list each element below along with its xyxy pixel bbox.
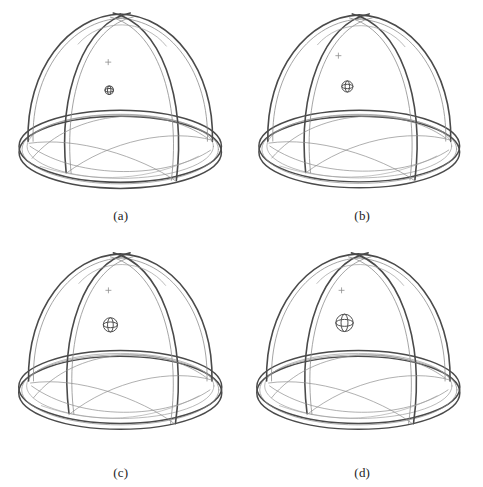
dome-wireframe-d xyxy=(256,252,459,428)
panel-caption-b: (b) xyxy=(242,209,483,222)
interior-arc-3 xyxy=(307,375,450,414)
interior-arc-2 xyxy=(269,146,448,171)
meridian-arc-2-outer xyxy=(120,14,212,141)
meridian-arc-2-outer xyxy=(120,253,212,380)
meridian-arc-3-inner xyxy=(309,256,370,414)
meridian-arc-2-outer xyxy=(359,15,451,141)
dome-wireframe-b xyxy=(258,14,459,188)
meridian-arc-2-inner xyxy=(357,19,446,141)
meridian-arc-4-inner xyxy=(348,256,411,423)
dome-illustration-d xyxy=(242,244,483,487)
wireframe-sphere-marker-a xyxy=(105,86,113,94)
point-cross-marker-a xyxy=(105,59,111,65)
interior-arc-2 xyxy=(30,146,210,171)
figure-root: (a) xyxy=(0,0,483,487)
wireframe-sphere-marker-c xyxy=(103,317,117,331)
interior-arc-4 xyxy=(268,142,414,181)
panel-a: (a) xyxy=(0,0,242,244)
interior-arc-2 xyxy=(32,385,210,411)
point-cross-marker-c xyxy=(105,287,111,293)
meridian-arc-3-outer xyxy=(304,14,369,172)
panel-b: (b) xyxy=(242,0,483,244)
meridian-arc-4-inner xyxy=(349,18,412,180)
equator-disc-ellipse xyxy=(27,114,213,178)
point-cross-marker-d xyxy=(338,287,344,293)
meridian-arc-4-inner xyxy=(110,256,173,423)
meridian-arc-3-inner xyxy=(309,18,372,173)
meridian-arc-1-inner xyxy=(272,19,361,141)
meridian-arc-2-outer xyxy=(358,253,450,380)
interior-arc-3 xyxy=(69,375,212,414)
panel-caption-d: (d) xyxy=(242,466,483,479)
interior-arc-5 xyxy=(40,156,198,177)
dome-illustration-c xyxy=(0,244,242,487)
panel-d: (d) xyxy=(242,244,483,487)
meridian-arc-3-outer xyxy=(65,13,131,172)
dome-wireframe-a xyxy=(19,13,221,188)
interior-arc-5 xyxy=(279,156,436,177)
meridian-arc-4-inner xyxy=(110,17,173,180)
interior-arc-4 xyxy=(29,142,176,181)
point-cross-marker-b xyxy=(335,53,341,59)
meridian-arc-1-inner xyxy=(33,18,122,141)
wireframe-sphere-marker-b xyxy=(341,81,352,92)
interior-arc-2 xyxy=(269,385,447,411)
interior-arc-5 xyxy=(279,395,437,417)
panel-caption-a: (a) xyxy=(0,209,242,222)
dome-illustration-a xyxy=(0,0,242,244)
meridian-arc-3-inner xyxy=(72,256,133,414)
dome-wireframe-c xyxy=(19,252,222,428)
interior-arc-5 xyxy=(41,395,199,417)
panel-grid: (a) xyxy=(0,0,483,487)
wireframe-sphere-marker-d xyxy=(335,314,352,331)
equator-disc-ellipse xyxy=(266,114,451,178)
panel-c: (c) xyxy=(0,244,242,487)
dome-illustration-b xyxy=(242,0,483,244)
panel-caption-c: (c) xyxy=(0,466,242,479)
meridian-arc-2-inner xyxy=(118,18,207,141)
meridian-arc-3-inner xyxy=(70,17,134,173)
